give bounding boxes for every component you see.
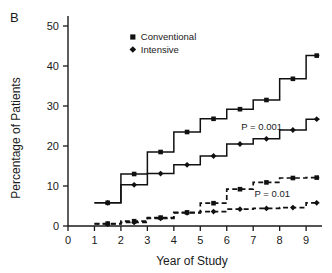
marker-upper-conventional: [185, 130, 190, 135]
x-tick-label: 8: [277, 234, 283, 246]
y-tick-label: 10: [47, 180, 59, 192]
marker-lower-conventional: [314, 175, 319, 180]
figure-panel-b: B Percentage of Patients Year of Study 0…: [0, 0, 332, 273]
marker-upper-conventional: [291, 77, 296, 82]
marker-upper-intensive: [237, 141, 243, 147]
survival-step-chart: B Percentage of Patients Year of Study 0…: [0, 0, 332, 273]
y-axis-title: Percentage of Patients: [9, 77, 23, 198]
marker-upper-conventional: [132, 172, 137, 177]
marker-lower-intensive: [211, 209, 217, 215]
marker-lower-conventional: [291, 176, 296, 181]
y-tick-label: 30: [47, 100, 59, 112]
marker-lower-intensive: [290, 205, 296, 211]
marker-upper-conventional: [211, 117, 216, 122]
chart-legend: ConventionalIntensive: [130, 31, 197, 55]
marker-lower-conventional: [211, 201, 216, 206]
marker-lower-intensive: [314, 200, 320, 206]
y-tick-label: 20: [47, 140, 59, 152]
x-tick-label: 9: [303, 234, 309, 246]
y-tick-label: 0: [53, 220, 59, 232]
marker-upper-intensive: [211, 153, 217, 159]
marker-upper-intensive: [158, 171, 164, 177]
marker-upper-conventional: [264, 98, 269, 103]
legend-marker-intensive: [130, 46, 137, 53]
x-tick-label: 6: [224, 234, 230, 246]
x-tick-label: 3: [144, 234, 150, 246]
panel-label: B: [10, 10, 19, 25]
marker-upper-intensive: [184, 162, 190, 168]
marker-upper-intensive: [290, 127, 296, 133]
marker-lower-intensive: [237, 206, 243, 212]
x-tick-label: 4: [171, 234, 177, 246]
y-tick-labels: 01020304050: [47, 20, 59, 232]
p-value-label: P = 0.01: [255, 188, 290, 199]
legend-label-conventional: Conventional: [141, 31, 196, 42]
x-tick-label: 2: [118, 234, 124, 246]
x-tick-label: 5: [197, 234, 203, 246]
x-tick-label: 1: [91, 234, 97, 246]
x-tick-label: 7: [250, 234, 256, 246]
legend-label-intensive: Intensive: [141, 44, 179, 55]
x-tick-labels: 0123456789: [65, 234, 309, 246]
x-axis-title: Year of Study: [156, 254, 228, 268]
p-value-label: P = 0.001: [241, 121, 282, 132]
y-tick-label: 40: [47, 60, 59, 72]
marker-lower-intensive: [264, 206, 270, 212]
marker-upper-conventional: [158, 150, 163, 155]
marker-lower-conventional: [238, 187, 243, 192]
marker-upper-conventional: [238, 107, 243, 112]
marker-upper-intensive: [314, 116, 320, 122]
marker-lower-conventional: [264, 180, 269, 185]
legend-marker-conventional: [130, 34, 135, 39]
marker-upper-intensive: [264, 136, 270, 142]
y-tick-label: 50: [47, 20, 59, 32]
series-line-upper-conventional: [94, 56, 319, 203]
marker-upper-conventional: [314, 53, 319, 58]
x-tick-label: 0: [65, 234, 71, 246]
p-value-annotations: P = 0.001P = 0.01: [241, 121, 290, 199]
marker-upper-intensive: [131, 182, 137, 188]
